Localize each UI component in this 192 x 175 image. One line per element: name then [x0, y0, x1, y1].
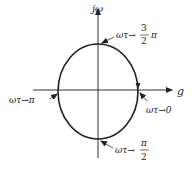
annotation-left: ωτ→π — [9, 95, 36, 105]
pointer-left — [50, 94, 57, 99]
annotation-top-frac-num: 3 — [141, 23, 147, 33]
annotation-bottom-frac-den: 2 — [141, 152, 147, 162]
annotation-bottom-frac-num: π — [140, 138, 148, 148]
nyquist-diagram: jω g ωτ→ 3 2 π ωτ→π ωτ→0 ωτ→ π 2 — [0, 0, 192, 175]
horizontal-axis-label: g — [177, 85, 184, 98]
annotation-top-suffix: π — [150, 30, 158, 40]
annotation-top-frac-den: 2 — [141, 36, 147, 46]
pointer-top — [102, 37, 114, 43]
direction-arrow-icon — [136, 83, 141, 89]
pointer-bottom — [101, 141, 113, 148]
vertical-axis-label: jω — [90, 3, 103, 14]
pointer-right — [140, 93, 147, 101]
annotation-bottom-prefix: ωτ→ — [115, 145, 135, 155]
annotation-right: ωτ→0 — [146, 105, 172, 115]
annotation-top-prefix: ωτ→ — [116, 30, 136, 40]
